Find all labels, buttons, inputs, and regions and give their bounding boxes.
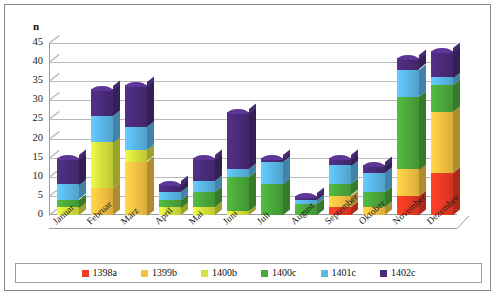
bar-segment[interactable] — [91, 142, 113, 188]
bar-segment[interactable] — [227, 169, 249, 177]
bar-segment[interactable] — [125, 85, 147, 127]
bar-segment-side — [283, 179, 290, 215]
legend-swatch — [261, 270, 268, 277]
bar-cap — [227, 109, 249, 114]
bar-series-container — [49, 43, 457, 215]
bar-cap-top — [193, 155, 215, 160]
y-tick-label: 35 — [13, 75, 43, 86]
bar-cap-top — [261, 155, 283, 160]
bar-cap-top — [329, 155, 351, 160]
bar-segment[interactable] — [397, 70, 419, 97]
y-tick-label: 40 — [13, 56, 43, 67]
bar-segment[interactable] — [397, 169, 419, 196]
bar-segment[interactable] — [261, 162, 283, 185]
bar-segment[interactable] — [363, 173, 385, 192]
bar-segment[interactable] — [227, 112, 249, 169]
bar-segment-face — [431, 112, 453, 173]
chart-frame: n 051015202530354045 JanuarFebruarMärzAp… — [4, 4, 491, 291]
bar-segment[interactable] — [329, 165, 351, 184]
bar-segment[interactable] — [193, 181, 215, 192]
bar-segment[interactable] — [227, 177, 249, 211]
bar-segment-side — [453, 106, 460, 173]
bar-segment-face — [125, 150, 147, 161]
bar-segment-side — [419, 64, 426, 96]
bar-segment-face — [91, 142, 113, 188]
bar-segment-face — [329, 184, 351, 195]
y-tick-label: 25 — [13, 113, 43, 124]
bar-segment-face — [397, 169, 419, 196]
legend-swatch — [141, 270, 148, 277]
bar-cap — [57, 155, 79, 160]
y-tick-label: 30 — [13, 94, 43, 105]
bar-segment[interactable] — [91, 89, 113, 116]
bar-cap-top — [91, 86, 113, 91]
bar-segment-side — [419, 91, 426, 169]
bar-segment-face — [397, 70, 419, 97]
legend-label: 1398a — [93, 268, 117, 278]
y-tick-label: 5 — [13, 190, 43, 201]
y-tick-label: 0 — [13, 209, 43, 220]
bar-segment[interactable] — [193, 158, 215, 181]
bar-cap — [193, 155, 215, 160]
legend-label: 1401c — [332, 268, 356, 278]
bar-cap-top — [227, 109, 249, 114]
bar-segment-side — [147, 156, 154, 215]
bar-segment-face — [397, 97, 419, 170]
bar-segment[interactable] — [431, 112, 453, 173]
bar-segment[interactable] — [91, 116, 113, 143]
bar-cap — [261, 155, 283, 160]
bar-segment-side — [453, 167, 460, 215]
legend-swatch — [321, 270, 328, 277]
bar-cap-top — [431, 48, 453, 53]
legend-swatch — [201, 270, 208, 277]
bar-segment-side — [113, 110, 120, 142]
bar-cap-top — [159, 181, 181, 186]
legend-label: 1402c — [391, 268, 415, 278]
legend-label: 1400b — [212, 268, 237, 278]
y-tick-label: 15 — [13, 152, 43, 163]
bar-segment[interactable] — [193, 192, 215, 207]
bar-cap-top — [125, 82, 147, 87]
bar-segment[interactable] — [57, 158, 79, 185]
bar-segment-face — [125, 85, 147, 127]
bar-cap — [125, 82, 147, 87]
bar-segment-face — [159, 192, 181, 200]
bar-cap — [363, 162, 385, 167]
bar-cap-top — [363, 162, 385, 167]
bar-segment-face — [431, 77, 453, 85]
bar-segment-side — [113, 137, 120, 188]
legend-item[interactable]: 1400b — [201, 268, 237, 278]
bar-segment-face — [57, 184, 79, 199]
y-tick-label: 10 — [13, 171, 43, 182]
bar-segment[interactable] — [57, 184, 79, 199]
y-axis-title: n — [33, 20, 39, 32]
bar-segment[interactable] — [125, 127, 147, 150]
bar-cap — [159, 181, 181, 186]
bar-segment-side — [113, 183, 120, 215]
bar-segment-face — [363, 173, 385, 192]
bar-segment-side — [453, 80, 460, 112]
bar-segment[interactable] — [397, 97, 419, 170]
legend-item[interactable]: 1400c — [261, 268, 296, 278]
bar-segment[interactable] — [431, 77, 453, 85]
bar-segment[interactable] — [125, 150, 147, 161]
legend-swatch — [82, 270, 89, 277]
bar-segment[interactable] — [329, 184, 351, 195]
legend-item[interactable]: 1398a — [82, 268, 117, 278]
bar-segment-side — [147, 80, 154, 128]
bar-segment-face — [227, 177, 249, 211]
bar-segment-face — [227, 112, 249, 169]
bar-segment-face — [125, 127, 147, 150]
bar-segment[interactable] — [159, 200, 181, 208]
bar-segment[interactable] — [431, 51, 453, 78]
legend-item[interactable]: 1399b — [141, 268, 177, 278]
y-tick-label: 20 — [13, 133, 43, 144]
legend-item[interactable]: 1402c — [380, 268, 415, 278]
legend-item[interactable]: 1401c — [321, 268, 356, 278]
bar-segment[interactable] — [159, 192, 181, 200]
bar-cap — [91, 86, 113, 91]
bar-segment[interactable] — [431, 85, 453, 112]
bar-cap-top — [57, 155, 79, 160]
bar-cap — [431, 48, 453, 53]
bar-segment-face — [329, 165, 351, 184]
